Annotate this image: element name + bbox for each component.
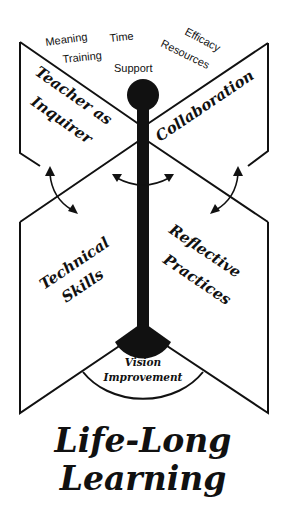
fan-black-cap bbox=[115, 322, 171, 359]
fan-labels: Vision Improvement bbox=[103, 356, 183, 383]
life-long-learning-diagram: Meaning Training Time Support Efficacy R… bbox=[0, 0, 288, 514]
top-labels: Meaning Training Time Support Efficacy R… bbox=[45, 25, 223, 74]
right-arrow-head-down bbox=[210, 204, 220, 214]
center-arrow-head-right bbox=[164, 174, 174, 182]
fan-label-line1: Vision bbox=[125, 356, 162, 368]
right-double-arrow bbox=[216, 174, 238, 210]
left-double-arrow bbox=[50, 174, 72, 210]
fan-label-line2: Improvement bbox=[103, 371, 183, 383]
label-meaning: Meaning bbox=[45, 30, 88, 48]
label-support: Support bbox=[114, 62, 153, 74]
central-pole bbox=[127, 79, 159, 328]
label-training: Training bbox=[62, 49, 102, 65]
pole-shaft bbox=[137, 100, 149, 328]
left-arrow-head-down bbox=[68, 204, 78, 214]
center-arrow-head-left bbox=[112, 174, 122, 182]
label-time: Time bbox=[109, 30, 134, 44]
title-line1: Life-Long bbox=[54, 421, 232, 460]
panel-top-right-label: Collaboration bbox=[152, 66, 257, 145]
left-arrow-head-up bbox=[45, 166, 55, 176]
title-line2: Learning bbox=[59, 459, 227, 498]
diagram-title: Life-Long Learning bbox=[54, 421, 232, 498]
right-arrow-head-up bbox=[233, 166, 243, 176]
